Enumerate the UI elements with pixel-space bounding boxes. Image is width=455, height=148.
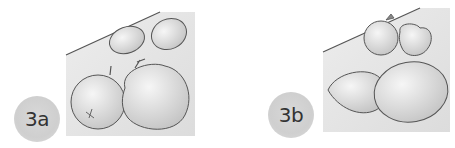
- figure-label: 3a: [25, 107, 49, 131]
- figure-label-badge: 3b: [268, 92, 314, 138]
- figure-3b: 3b: [228, 0, 455, 148]
- figure-label-badge: 3a: [14, 96, 60, 142]
- fruit-illustration-3b: [228, 0, 455, 148]
- figure-3a: 3a: [0, 0, 228, 148]
- figure-label: 3b: [279, 103, 303, 127]
